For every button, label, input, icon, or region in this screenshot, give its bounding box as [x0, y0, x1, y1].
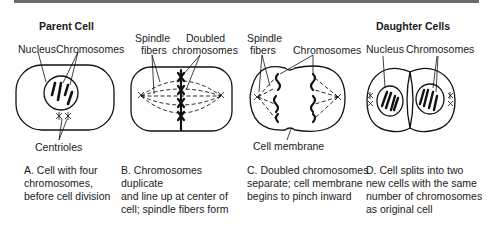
daughter-cell-right-membrane: [410, 68, 455, 131]
caption-b-line: B. Chromosomes duplicate: [121, 164, 246, 190]
anaphase-spindle-fibers: [258, 78, 338, 118]
caption-c-line: C. Doubled chromosomes: [247, 164, 372, 177]
caption-d-line: as original cell: [366, 203, 491, 216]
caption-d-line: number of chromosomes: [366, 190, 491, 203]
separated-chromosomes: [274, 74, 315, 122]
caption-d-line: D. Cell splits into two: [366, 164, 491, 177]
label-chromosomes-c: Chromosomes: [293, 44, 361, 56]
label-doubled-b-2: chromosomes: [172, 44, 238, 56]
daughter-cells: [367, 56, 455, 132]
daughter-left-nucleus: [377, 86, 403, 116]
parent-cell: [16, 52, 114, 140]
metaphase-cell: [131, 55, 232, 131]
label-spindle-c-2: fibers: [250, 44, 276, 56]
label-chromosomes-d: Chromosomes: [406, 43, 474, 55]
daughter-centrioles-icon: [368, 92, 453, 106]
caption-c: C. Doubled chromosomes separate; cell me…: [247, 164, 372, 203]
caption-d: D. Cell splits into two new cells with t…: [366, 164, 491, 216]
daughter-left-chromosomes: [382, 92, 398, 110]
anaphase-centrioles-icon: [254, 94, 341, 100]
caption-b: B. Chromosomes duplicate and line up at …: [121, 164, 246, 216]
doubled-chromosomes: [178, 70, 184, 130]
anaphase-cell: [250, 55, 345, 140]
anaphase-cell-membrane: [250, 66, 345, 131]
caption-c-line: begins to pinch inward: [247, 190, 372, 203]
label-nucleus-a: Nucleus: [18, 43, 56, 55]
label-nucleus-d: Nucleus: [366, 43, 404, 55]
daughter-cells-title: Daughter Cells: [376, 20, 450, 32]
label-centrioles: Centrioles: [35, 141, 82, 153]
metaphase-leader-lines: [152, 55, 200, 94]
label-spindle-b-1: Spindle: [135, 32, 170, 44]
caption-d-line: new cells with the same: [366, 177, 491, 190]
caption-b-line: and line up at center of: [121, 190, 246, 203]
label-cell-membrane: Cell membrane: [253, 140, 324, 152]
caption-c-line: separate; cell membrane: [247, 177, 372, 190]
parent-cell-title: Parent Cell: [39, 20, 94, 32]
centrioles-icon: [56, 112, 71, 120]
label-spindle-b-2: fibers: [141, 44, 167, 56]
label-doubled-b-1: Doubled: [186, 32, 225, 44]
parent-chromosomes: [52, 83, 72, 104]
label-chromosomes-a: Chromosomes: [56, 43, 124, 55]
caption-b-line: cell; spindle fibers form: [121, 203, 246, 216]
daughter-right-chromosomes: [420, 90, 437, 110]
parent-cell-membrane: [16, 65, 114, 130]
label-spindle-c-1: Spindle: [247, 32, 282, 44]
